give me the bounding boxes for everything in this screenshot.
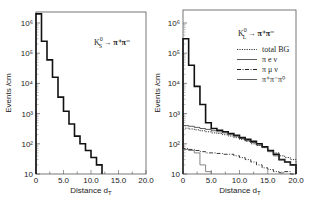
figure: 1010²10³10⁴10⁵10⁶ 05.010.015.020.0 Event… [0, 0, 315, 204]
y-tick-label: 10⁵ [21, 49, 33, 58]
y-tick-label: 10⁶ [168, 19, 180, 28]
left-x-axis-label: Distance dT [70, 186, 112, 196]
x-tick-label: 15.0 [111, 176, 127, 185]
y-tick-label: 10⁴ [21, 79, 34, 88]
x-tick-label: 20.0 [288, 176, 304, 185]
x-tick-label: 20.0 [138, 176, 154, 185]
left-series [36, 14, 102, 174]
y-tick-label: 10³ [21, 110, 33, 119]
y-tick-label: 10⁶ [21, 19, 33, 28]
left-chart: 1010²10³10⁴10⁵10⁶ 05.010.015.020.0 Event… [4, 12, 154, 196]
y-tick-label: 10² [21, 140, 33, 149]
y-tick-label: 10⁴ [168, 79, 181, 88]
right-y-axis-label: Events /cm [153, 73, 162, 113]
y-tick-label: 10 [171, 170, 180, 179]
x-tick-label: 0 [34, 176, 39, 185]
legend-label: π μ ν [262, 65, 278, 74]
y-tick-label: 10 [24, 170, 33, 179]
right-x-ticks: 05.010.015.020.0 [181, 170, 305, 185]
right-x-axis-label: Distance dT [219, 186, 261, 196]
x-tick-label: 5.0 [206, 176, 218, 185]
legend-label: π⁺π⁻π⁰ [262, 75, 285, 84]
legend-label: total BG [262, 45, 290, 54]
left-x-ticks: 05.010.015.020.0 [34, 170, 155, 185]
x-tick-label: 10.0 [232, 176, 248, 185]
y-tick-label: 10² [168, 140, 180, 149]
left-chart-title: K0S→ π⁺π⁻ [94, 36, 130, 49]
left-y-axis-label: Events /cm [4, 73, 13, 113]
histogram-series [183, 126, 296, 174]
right-legend: total BGπ e νπ μ νπ⁺π⁻π⁰ [237, 45, 290, 84]
x-tick-label: 5.0 [58, 176, 70, 185]
x-tick-label: 10.0 [83, 176, 99, 185]
histogram-series [36, 14, 102, 174]
x-tick-label: 15.0 [260, 176, 276, 185]
right-chart: 1010²10³10⁴10⁵10⁶ 05.010.015.020.0 Event… [153, 10, 304, 196]
y-tick-label: 10³ [168, 110, 180, 119]
right-chart-title: K0L→ π⁺π⁻ [238, 27, 274, 40]
legend-label: π e ν [262, 55, 278, 64]
y-tick-label: 10⁵ [168, 49, 180, 58]
x-tick-label: 0 [181, 176, 186, 185]
right-y-ticks: 1010²10³10⁴10⁵10⁶ [168, 19, 187, 179]
left-y-ticks: 1010²10³10⁴10⁵10⁶ [21, 19, 40, 179]
right-series [183, 39, 296, 174]
